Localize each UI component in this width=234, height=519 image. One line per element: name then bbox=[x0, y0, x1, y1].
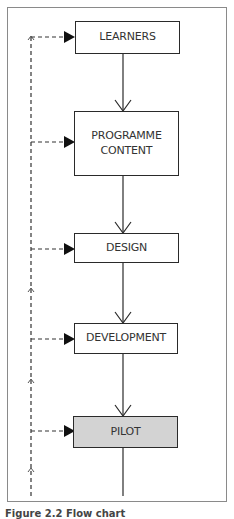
node-label: LEARNERS bbox=[99, 30, 155, 45]
node-label: DESIGN bbox=[106, 241, 147, 256]
node-label: DEVELOPMENT bbox=[86, 331, 166, 346]
node-pilot: PILOT bbox=[73, 416, 178, 448]
node-learners: LEARNERS bbox=[75, 21, 180, 54]
node-development: DEVELOPMENT bbox=[74, 323, 178, 354]
node-label: PILOT bbox=[111, 425, 141, 440]
figure-caption: Figure 2.2 Flow chart bbox=[5, 508, 125, 519]
node-programme-content: PROGRAMME CONTENT bbox=[74, 111, 179, 176]
node-label-line1: PROGRAMME bbox=[91, 129, 161, 144]
node-design: DESIGN bbox=[74, 233, 179, 263]
node-label-line2: CONTENT bbox=[101, 144, 153, 159]
